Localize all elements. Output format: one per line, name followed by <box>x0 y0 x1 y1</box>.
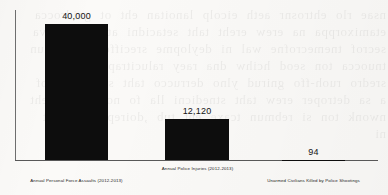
category-label-annual-police-injuries: Annual Police Injuries (2012-2013) <box>121 166 274 171</box>
bar-value-label-2: 12,120 <box>165 106 229 116</box>
x-axis-line <box>15 160 378 161</box>
category-label-unarmed-civilians-killed: Unarmed Civilians Killed by Police Shoot… <box>237 178 388 183</box>
bar-chart: 40,000 Annual Personal Force Assaults (2… <box>0 0 388 195</box>
bar-value-label-3: 94 <box>282 147 345 157</box>
bar-value-label-1: 40,000 <box>45 11 108 21</box>
bar-annual-police-injuries <box>165 119 229 160</box>
bar-annual-personal-force-assaults <box>45 24 108 160</box>
y-axis-line <box>15 10 16 161</box>
category-label-annual-personal-force-assaults: Annual Personal Force Assaults (2012-201… <box>0 178 153 183</box>
